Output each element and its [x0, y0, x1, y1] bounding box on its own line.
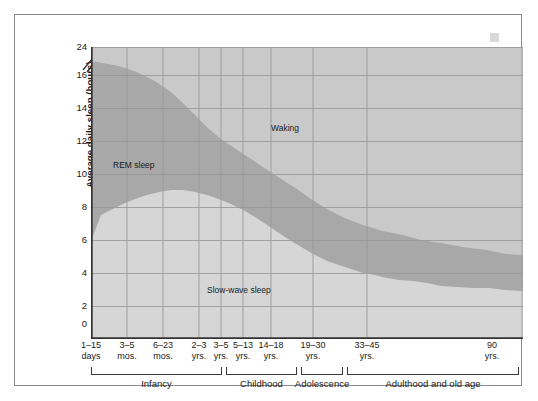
x-tick-9-top: 33–45 — [337, 340, 397, 351]
x-axis-tick-labels: 1–15 days 3–5 mos. 6–23 mos. 2–3 yrs. 3–… — [15, 340, 523, 370]
bracket-adulthood — [347, 367, 519, 375]
x-tick-8-bottom: yrs. — [283, 351, 343, 362]
y-tick-12: 12 — [61, 136, 87, 146]
x-tick-9: 33–45 yrs. — [337, 340, 397, 361]
bracket-label-adulthood: Adulthood and old age — [347, 378, 519, 389]
region-label-rem: REM sleep — [113, 160, 155, 170]
y-tick-2: 2 — [61, 301, 87, 311]
life-stage-brackets: Infancy Childhood Adolescence Adulthood … — [15, 367, 523, 401]
y-tick-8: 8 — [61, 202, 87, 212]
y-tick-0: 0 — [61, 319, 87, 329]
y-tick-4: 4 — [61, 268, 87, 278]
region-label-slow-wave: Slow-wave sleep — [207, 285, 271, 295]
y-tick-6: 6 — [61, 235, 87, 245]
x-tick-10-top: 90 — [462, 340, 522, 351]
bracket-infancy — [91, 367, 222, 375]
plot-area: Waking REM sleep Slow-wave sleep — [91, 47, 523, 339]
corner-marker — [490, 33, 499, 42]
sleep-chart-figure: Average daily sleep (hours) 24 16 14 12 … — [0, 0, 538, 401]
stacked-area-plot — [91, 47, 523, 339]
y-tick-10: 10 — [61, 169, 87, 179]
x-tick-10-bottom: yrs. — [462, 351, 522, 362]
bracket-label-infancy: Infancy — [91, 378, 222, 389]
x-tick-8: 19–30 yrs. — [283, 340, 343, 361]
chart-frame: Average daily sleep (hours) 24 16 14 12 … — [14, 14, 522, 386]
region-label-waking: Waking — [271, 123, 299, 133]
x-tick-8-top: 19–30 — [283, 340, 343, 351]
bracket-childhood — [226, 367, 297, 375]
y-tick-14: 14 — [61, 103, 87, 113]
x-tick-10: 90 yrs. — [462, 340, 522, 361]
bracket-adolescence — [301, 367, 343, 375]
x-tick-9-bottom: yrs. — [337, 351, 397, 362]
